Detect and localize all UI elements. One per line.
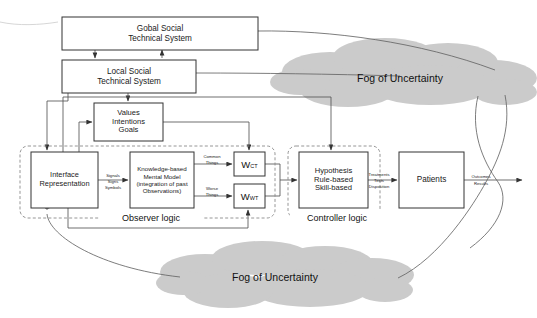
signals-signs-symbols-label: Signals Signs Symbols — [99, 165, 127, 199]
observer-logic-label: Observer logic — [99, 211, 203, 224]
knowledge-based-mental-model-box — [130, 152, 194, 208]
edge-wwt-merge — [265, 180, 280, 196]
decorative-stray-line — [0, 22, 58, 25]
w-common-things-label: WCT — [234, 152, 265, 176]
w-common-things-subscript: CT — [250, 163, 257, 169]
patients-box — [399, 152, 464, 208]
w-worse-things-subscript: WT — [250, 195, 259, 201]
system-diagram: Gobal Social Technical System Local Soci… — [0, 0, 537, 318]
w-worse-things-label: WWT — [234, 184, 265, 208]
edge-local-to-interface — [47, 93, 68, 150]
values-intentions-goals-box — [94, 103, 163, 141]
w-common-things-symbol: W — [241, 159, 250, 170]
fog-of-uncertainty-bottom-label: Fog of Uncertainty — [215, 268, 335, 286]
w-worse-things-symbol: W — [241, 191, 250, 202]
controller-logic-label: Controller logic — [290, 211, 384, 224]
edge-wct-merge — [265, 164, 280, 180]
outcomes-results-label: Outcomes Results — [464, 170, 498, 191]
common-things-label: Common Things — [196, 152, 228, 168]
local-social-technical-system-box — [62, 60, 196, 93]
treatments-tests-disposition-label: Treatments Tests Disposition — [363, 166, 395, 196]
interface-representation-box — [31, 152, 98, 208]
hypothesis-rule-skill-based-box — [299, 152, 368, 208]
global-social-technical-system-box — [62, 17, 258, 50]
worse-things-label: Worse Things — [196, 184, 228, 200]
fog-of-uncertainty-top-label: Fog of Uncertainty — [340, 69, 460, 87]
